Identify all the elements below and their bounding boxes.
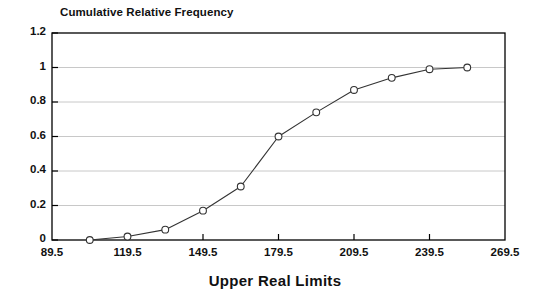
y-axis-tick-label: 0 (8, 232, 46, 244)
data-point-marker (388, 74, 395, 81)
data-point-marker (313, 109, 320, 116)
data-series-line (90, 68, 468, 241)
x-axis-tick-label: 239.5 (400, 246, 460, 258)
x-axis-tick-label: 149.5 (173, 246, 233, 258)
x-axis-tick-label: 89.5 (22, 246, 82, 258)
data-point-marker (162, 226, 169, 233)
x-axis-tick-label: 209.5 (324, 246, 384, 258)
x-axis-tick-label: 119.5 (98, 246, 158, 258)
data-point-marker (237, 183, 244, 190)
data-point-marker (86, 237, 93, 244)
y-axis-tick-label: 0.8 (8, 94, 46, 106)
data-point-marker (426, 66, 433, 73)
chart-container: Cumulative Relative Frequency Upper Real… (0, 0, 550, 303)
y-axis-tick-label: 0.4 (8, 163, 46, 175)
data-point-marker (464, 64, 471, 71)
y-axis-tick-label: 1 (8, 60, 46, 72)
y-axis-tick-label: 1.2 (8, 25, 46, 37)
data-point-marker (351, 87, 358, 94)
x-axis-tick-label: 179.5 (249, 246, 309, 258)
x-axis-tick-label: 269.5 (475, 246, 535, 258)
y-axis-tick-label: 0.6 (8, 129, 46, 141)
data-point-marker (275, 133, 282, 140)
data-point-marker (200, 207, 207, 214)
x-axis-label: Upper Real Limits (0, 272, 550, 289)
data-point-marker (124, 233, 131, 240)
y-axis-tick-label: 0.2 (8, 198, 46, 210)
